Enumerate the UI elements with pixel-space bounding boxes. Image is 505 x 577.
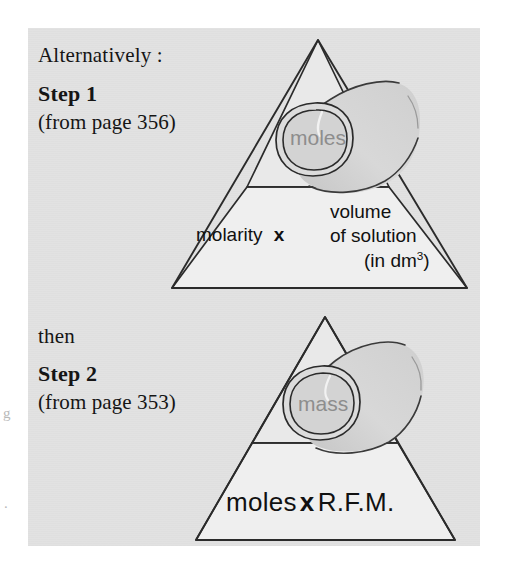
step-2-moles-label: moles (226, 487, 297, 517)
step-1-volume-unit-suffix: ) (423, 250, 429, 271)
step-2-bottom-group: molesxR.F.M. (226, 487, 395, 518)
step-2-title: Step 2 (38, 362, 97, 386)
alternatively-label: Alternatively : (38, 44, 163, 67)
scan-bleed-mark-2: . (4, 495, 8, 512)
scanned-figure-page: g . Alternatively : Step 1 (from page 35… (0, 0, 505, 577)
step-2-multiply-symbol: x (297, 487, 318, 517)
step-1-title: Step 1 (38, 82, 97, 106)
step-1-volume-line-1: volume (330, 200, 430, 224)
step-2-page-reference: (from page 353) (38, 390, 176, 414)
scan-bleed-mark-1: g (3, 405, 11, 422)
step-2-tube-word: mass (298, 392, 348, 416)
step-1-bottom-left-group: molarity x (196, 224, 290, 246)
step-1-volume-line-2: of solution (330, 224, 430, 248)
step-1-volume-line-3: (in dm3) (364, 249, 430, 273)
step-1-tube-word: moles (290, 126, 346, 150)
step-1-page-reference: (from page 356) (38, 110, 176, 134)
step-2-rfm-label: R.F.M. (318, 487, 395, 517)
step-1-multiply-symbol: x (268, 224, 291, 245)
step-1-bottom-right-group: volume of solution (in dm3) (330, 200, 430, 273)
then-label: then (38, 325, 75, 348)
step-1-volume-unit-prefix: (in dm (364, 250, 417, 271)
step-1-molarity-label: molarity (196, 224, 263, 245)
